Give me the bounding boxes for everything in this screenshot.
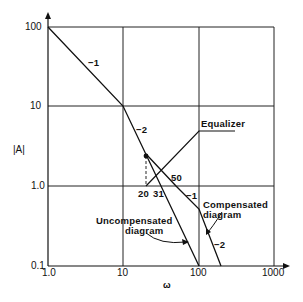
y-tick-10: 10 [30, 101, 41, 111]
equalizer-line [146, 131, 235, 186]
y-tick-1: 1.0 [31, 181, 45, 191]
slope-label-minus2-compensated: −2 [214, 240, 225, 250]
y-axis-label: |A| [13, 145, 25, 155]
slope-label-minus1-compensated: −1 [186, 191, 197, 201]
y-axis-arrow-icon [45, 12, 51, 19]
uncompensated-label-line2: diagram [125, 226, 163, 236]
x-tick-1: 1.0 [42, 268, 56, 278]
compensated-label-line2: diagram [203, 210, 241, 220]
equalizer-label: Equalizer [201, 119, 245, 129]
x-tick-1000: 1000 [262, 268, 284, 278]
marker-31: 31 [153, 189, 164, 199]
x-tick-10: 10 [117, 268, 128, 278]
bode-magnitude-chart [0, 0, 303, 302]
y-tick-100: 100 [25, 22, 42, 32]
marker-50: 50 [171, 173, 182, 183]
slope-label-minus1-upper: −1 [88, 58, 99, 68]
intersection-dot [144, 154, 149, 159]
marker-20: 20 [138, 189, 149, 199]
x-tick-100: 100 [190, 268, 207, 278]
x-axis-label: ω [163, 281, 171, 290]
slope-label-minus2-upper: −2 [136, 125, 147, 135]
